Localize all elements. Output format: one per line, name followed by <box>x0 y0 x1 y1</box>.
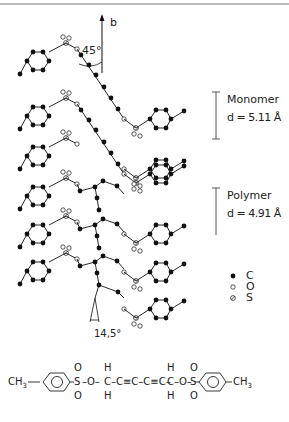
polymer-row-4 <box>95 285 186 328</box>
formula-o-up-right: O <box>190 362 198 373</box>
polymer-row-3 <box>18 245 187 291</box>
polymer-label: Polymer <box>227 189 272 202</box>
formula-o-down-right: O <box>190 390 198 401</box>
formula-c-right: C <box>167 376 174 387</box>
formula-ch3-right: CH3 <box>233 376 252 392</box>
formula-h-down-left: H <box>104 390 112 401</box>
monomer-row-3 <box>18 130 80 172</box>
b-axis-label: b <box>110 16 117 29</box>
polymer-row-1 <box>18 170 124 213</box>
monomer-d-label: d = 5.11 Å <box>227 111 281 124</box>
formula-o-down-left: O <box>74 390 82 401</box>
angle-45-label: 45° <box>82 44 102 57</box>
tilt-angle-label: 14,5° <box>94 327 121 340</box>
monomer-label: Monomer <box>227 93 279 106</box>
formula-o-left: –O– <box>82 376 100 387</box>
formula-s-left: S <box>74 376 80 387</box>
formula-ch3-left: CH3 <box>8 376 27 392</box>
polymer-row-2 <box>18 208 187 253</box>
formula-h-down-right: H <box>167 390 175 401</box>
polymer-spacing-bar <box>212 188 220 235</box>
formula-s-right: S <box>190 376 196 387</box>
formula-h-up-right: H <box>167 362 175 373</box>
formula-o-up-left: O <box>74 362 82 373</box>
legend-s: S <box>246 291 253 304</box>
formula-chain: –C≡C–C≡C– <box>111 376 171 387</box>
monomer-spacing-bar <box>212 92 220 139</box>
legend-symbols <box>231 274 236 301</box>
formula-h-up-left: H <box>104 362 112 373</box>
polymer-d-label: d = 4.91 Å <box>227 207 281 220</box>
tilt-angle-marker <box>90 298 99 322</box>
formula-c-left: C <box>104 376 111 387</box>
